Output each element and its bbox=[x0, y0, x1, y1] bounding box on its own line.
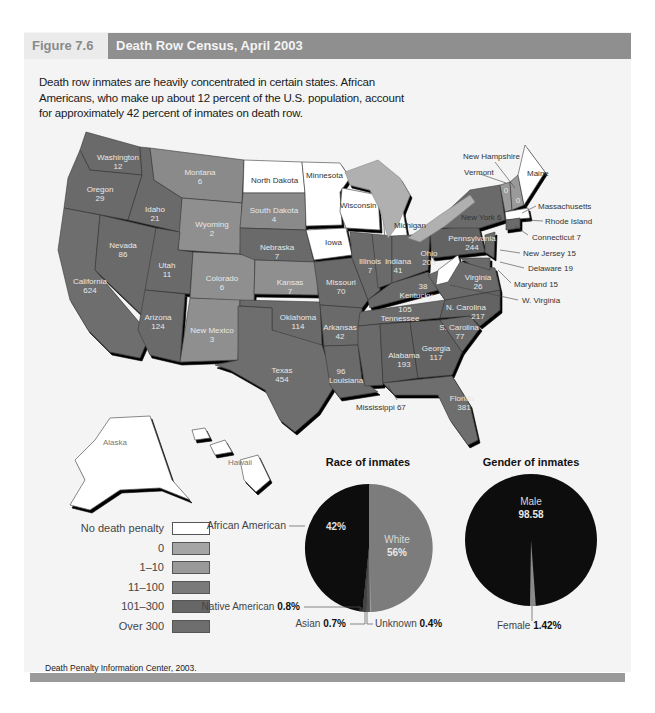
male-label: Male bbox=[520, 496, 542, 507]
asian-label: Asian 0.7% bbox=[295, 618, 346, 629]
male-pct: 98.58 bbox=[518, 509, 543, 520]
unknown-label: Unknown 0.4% bbox=[375, 618, 442, 629]
white-pct: 56% bbox=[387, 547, 407, 558]
bottom-rule bbox=[30, 673, 625, 682]
african-american-label: African American bbox=[207, 519, 287, 531]
gender-pie-title: Gender of inmates bbox=[483, 456, 580, 468]
female-label: Female 1.42% bbox=[497, 620, 562, 631]
white-label: White bbox=[384, 534, 410, 545]
pie-charts: Race of inmates 42% White 56% African Am… bbox=[0, 0, 655, 713]
race-pie-title: Race of inmates bbox=[326, 456, 410, 468]
race-pie bbox=[305, 484, 433, 612]
native-american-label: Native American 0.8% bbox=[202, 601, 300, 612]
african-american-pct: 42% bbox=[326, 521, 346, 532]
slice-african-american bbox=[305, 484, 369, 612]
source-citation: Death Penalty Information Center, 2003. bbox=[45, 663, 197, 673]
gender-pie bbox=[465, 474, 597, 606]
